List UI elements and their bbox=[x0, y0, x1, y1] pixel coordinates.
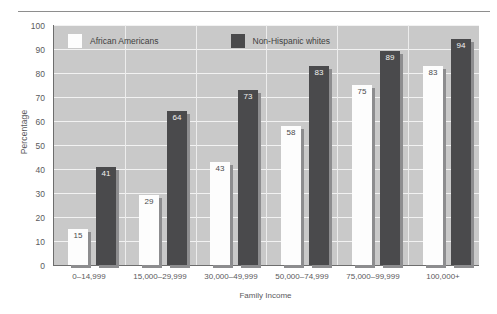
plot-area: 15 41 29 64 43 bbox=[53, 25, 479, 266]
bar-value-label: 43 bbox=[210, 165, 230, 173]
bar-fill: 73 bbox=[238, 90, 258, 265]
bar-african-americans-3: 58 bbox=[281, 126, 301, 265]
bar-value-label: 75 bbox=[352, 88, 372, 96]
y-tick-20: 20 bbox=[9, 214, 45, 223]
bar-value-label: 15 bbox=[68, 232, 88, 240]
y-tick-80: 80 bbox=[9, 70, 45, 79]
chart-figure: 100 90 80 70 60 50 40 30 20 10 0 Percent… bbox=[0, 0, 497, 314]
group-separator-3 bbox=[266, 25, 267, 265]
bar-african-americans-0: 15 bbox=[68, 229, 88, 265]
bar-fill: 29 bbox=[139, 195, 159, 265]
bar-non-hispanic-whites-4: 89 bbox=[380, 51, 400, 265]
bar-fill: 75 bbox=[352, 85, 372, 265]
bar-non-hispanic-whites-5: 94 bbox=[451, 39, 471, 265]
bar-value-label: 73 bbox=[238, 93, 258, 101]
bar-value-label: 94 bbox=[451, 42, 471, 50]
bar-fill: 94 bbox=[451, 39, 471, 265]
legend-label-non-hispanic-whites: Non-Hispanic whites bbox=[253, 36, 330, 46]
bar-non-hispanic-whites-2: 73 bbox=[238, 90, 258, 265]
group-separator-1 bbox=[125, 25, 126, 265]
bar-fill: 41 bbox=[96, 167, 116, 265]
bar-african-americans-2: 43 bbox=[210, 162, 230, 265]
bar-non-hispanic-whites-0: 41 bbox=[96, 167, 116, 265]
legend-item-african-americans: African Americans bbox=[68, 34, 159, 48]
y-tick-100: 100 bbox=[9, 22, 45, 31]
bar-fill: 58 bbox=[281, 126, 301, 265]
bar-fill: 15 bbox=[68, 229, 88, 265]
bar-fill: 43 bbox=[210, 162, 230, 265]
legend-swatch-light-icon bbox=[68, 34, 82, 48]
x-axis-title: Family Income bbox=[53, 291, 478, 300]
y-tick-30: 30 bbox=[9, 190, 45, 199]
bar-value-label: 83 bbox=[309, 69, 329, 77]
bar-value-label: 83 bbox=[423, 69, 443, 77]
bar-fill: 83 bbox=[423, 66, 443, 265]
y-tick-90: 90 bbox=[9, 46, 45, 55]
chart-legend: African Americans Non-Hispanic whites bbox=[68, 34, 330, 48]
bar-non-hispanic-whites-1: 64 bbox=[167, 111, 187, 265]
bar-african-americans-5: 83 bbox=[423, 66, 443, 265]
legend-item-non-hispanic-whites: Non-Hispanic whites bbox=[231, 34, 330, 48]
bar-non-hispanic-whites-3: 83 bbox=[309, 66, 329, 265]
bar-value-label: 41 bbox=[96, 170, 116, 178]
bar-value-label: 64 bbox=[167, 114, 187, 122]
bar-african-americans-1: 29 bbox=[139, 195, 159, 265]
legend-swatch-dark-icon bbox=[231, 34, 245, 48]
bar-fill: 89 bbox=[380, 51, 400, 265]
bar-african-americans-4: 75 bbox=[352, 85, 372, 265]
bar-value-label: 58 bbox=[281, 129, 301, 137]
bar-fill: 83 bbox=[309, 66, 329, 265]
group-separator-5 bbox=[408, 25, 409, 265]
group-separator-2 bbox=[196, 25, 197, 265]
group-separator-4 bbox=[337, 25, 338, 265]
y-tick-0: 0 bbox=[9, 262, 45, 271]
x-tick-5: 100,000+ bbox=[404, 273, 482, 281]
bar-value-label: 29 bbox=[139, 198, 159, 206]
bar-fill: 64 bbox=[167, 111, 187, 265]
y-axis-title: Percentage bbox=[19, 92, 29, 172]
bar-value-label: 89 bbox=[380, 54, 400, 62]
legend-label-african-americans: African Americans bbox=[90, 36, 159, 46]
y-tick-10: 10 bbox=[9, 238, 45, 247]
